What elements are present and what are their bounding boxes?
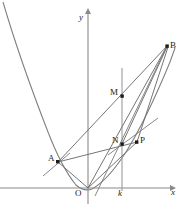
geometry-figure: A B M N P O k x y	[0, 0, 180, 207]
point-label-N: N	[112, 136, 119, 145]
segment-OA	[58, 162, 88, 188]
segment-AP	[58, 142, 137, 162]
point-marker-P	[135, 140, 138, 143]
vertical-line-label-k: k	[118, 189, 122, 198]
point-marker-B	[165, 44, 168, 47]
parabola-curve	[3, 2, 175, 190]
segment-NB	[122, 47, 167, 144]
geometry-canvas	[0, 0, 180, 207]
point-marker-M	[120, 94, 123, 97]
y-axis-arrow-icon	[85, 8, 91, 14]
y-axis-label: y	[79, 13, 83, 22]
x-axis-label: x	[171, 188, 175, 197]
point-label-A: A	[48, 154, 55, 163]
point-marker-N	[120, 142, 123, 145]
segment-OP	[88, 142, 137, 188]
point-label-P: P	[140, 136, 145, 145]
secant-line-through-P	[95, 48, 166, 196]
point-label-O: O	[75, 189, 82, 198]
point-label-M: M	[110, 88, 118, 97]
point-marker-A	[56, 160, 59, 163]
point-label-B: B	[170, 41, 176, 50]
